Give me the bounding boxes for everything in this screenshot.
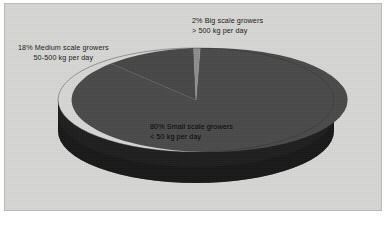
slice-label-medium-line1: 18% Medium scale growers <box>18 43 109 52</box>
slice-label-medium-scale-growers: 18% Medium scale growers 50-500 kg per d… <box>18 43 109 62</box>
cropped-caption-strip <box>0 216 386 233</box>
slice-label-small-line2: < 50 kg per day <box>150 132 233 142</box>
slice-label-big-line2: > 500 kg per day <box>192 26 263 36</box>
slice-label-small-line1: 80% Small scale growers <box>150 122 233 131</box>
slice-label-big-line1: 2% Big scale growers <box>192 16 263 25</box>
slice-label-medium-line2: 50-500 kg per day <box>18 53 109 63</box>
plot-area: 2% Big scale growers > 500 kg per day 18… <box>4 3 382 211</box>
slice-label-big-scale-growers: 2% Big scale growers > 500 kg per day <box>192 16 263 35</box>
pie-chart-figure: 2% Big scale growers > 500 kg per day 18… <box>0 0 386 233</box>
slice-label-small-scale-growers: 80% Small scale growers < 50 kg per day <box>150 122 233 141</box>
